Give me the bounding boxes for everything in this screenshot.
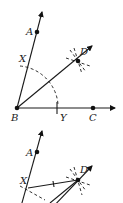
label-b: B — [10, 112, 18, 123]
point-a-2 — [35, 150, 40, 155]
point-d — [76, 59, 81, 64]
label-a-2: A — [25, 147, 33, 158]
label-x: X — [18, 53, 27, 64]
top-figure: A B C D X Y — [10, 12, 115, 123]
label-x-2: X — [19, 175, 28, 186]
point-a — [35, 30, 40, 35]
arc-xy — [20, 66, 58, 104]
label-c: C — [89, 112, 97, 123]
label-d-2: D — [79, 164, 88, 175]
tick-xd — [53, 181, 54, 187]
point-c — [91, 106, 96, 111]
label-a: A — [25, 26, 33, 37]
point-b — [15, 106, 20, 111]
label-d: D — [79, 46, 88, 57]
point-d-2 — [76, 178, 81, 183]
angle-bisector-diagram: A B C D X Y A D X — [0, 0, 123, 203]
label-y: Y — [60, 112, 68, 123]
bottom-figure: A D X — [19, 131, 92, 203]
